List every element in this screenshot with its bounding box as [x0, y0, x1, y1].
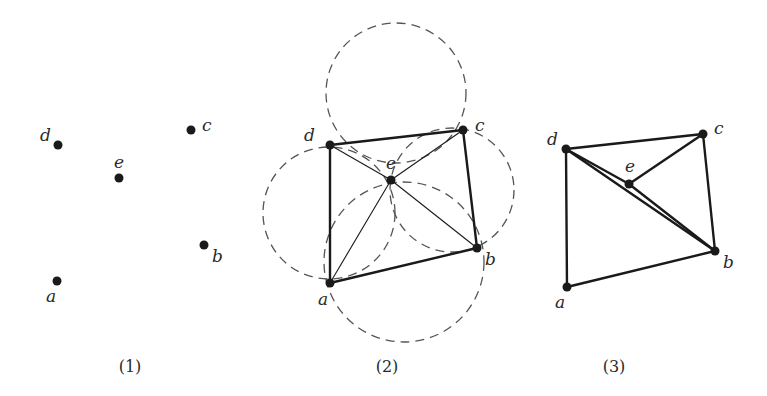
panel-3-triangulation: abcde	[547, 118, 734, 312]
caption-panel-2: (2)	[376, 357, 399, 376]
edge-eb	[391, 180, 477, 248]
edge-eb	[629, 184, 715, 251]
point-label-b: b	[485, 249, 496, 269]
point-label-d: d	[547, 129, 558, 149]
point-a	[326, 279, 335, 288]
point-c	[459, 126, 468, 135]
point-label-a: a	[555, 292, 565, 312]
point-label-d: d	[40, 125, 51, 145]
point-d	[326, 141, 335, 150]
delaunay-diagram: abcde abcde abcde (1) (2) (3)	[0, 0, 767, 396]
point-e	[625, 180, 634, 189]
edge-ba	[330, 248, 477, 283]
edge-ed	[330, 145, 391, 180]
circumcircle-aeb	[324, 182, 484, 342]
point-b	[711, 247, 720, 256]
panel-1-point-set: abcde	[40, 115, 223, 306]
point-label-e: e	[386, 153, 396, 173]
point-a	[53, 277, 62, 286]
edge-cb	[703, 134, 715, 251]
point-e	[115, 174, 124, 183]
point-label-c: c	[475, 115, 485, 135]
edge-dc	[330, 130, 463, 145]
caption-panel-3: (3)	[603, 357, 626, 376]
point-a	[563, 283, 572, 292]
edge-cb	[463, 130, 477, 248]
point-label-b: b	[212, 246, 223, 266]
point-b	[473, 244, 482, 253]
point-d	[562, 145, 571, 154]
point-c	[699, 130, 708, 139]
point-e	[387, 176, 396, 185]
circumcircle-ecb	[390, 128, 514, 252]
point-label-e: e	[114, 152, 124, 172]
point-label-e: e	[625, 156, 635, 176]
edge-ad	[566, 149, 567, 287]
point-label-d: d	[304, 125, 315, 145]
edge-de	[566, 149, 629, 184]
point-label-a: a	[318, 289, 328, 309]
caption-panel-1: (1)	[119, 357, 142, 376]
panel-2-circumcircles: abcde	[263, 23, 514, 342]
point-label-b: b	[723, 252, 734, 272]
point-d	[54, 141, 63, 150]
edge-db	[566, 149, 715, 251]
point-label-c: c	[714, 118, 724, 138]
point-label-c: c	[202, 115, 212, 135]
edge-ba	[567, 251, 715, 287]
point-label-a: a	[46, 286, 56, 306]
point-b	[200, 241, 209, 250]
point-c	[187, 126, 196, 135]
